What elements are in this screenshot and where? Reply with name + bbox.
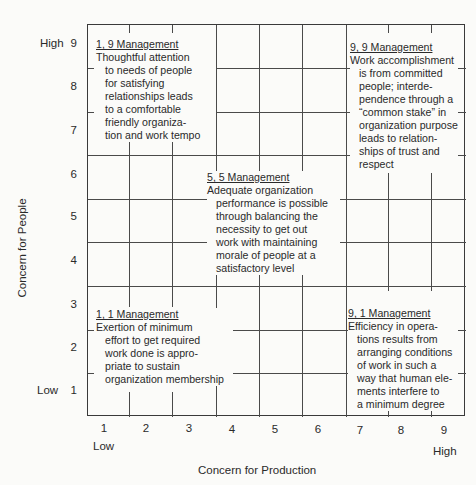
style-desc-line: friendly organiza- [96, 116, 200, 129]
style-desc-line: arranging conditions [348, 346, 452, 359]
grid-vline [431, 25, 432, 33]
style-desc-line: effort to get required [96, 334, 224, 347]
y-tick-7: 7 [57, 124, 77, 136]
style-desc-line: to a comfortable [96, 103, 200, 116]
managerial-grid: 1, 9 Management Thoughtful attention to … [87, 24, 465, 416]
style-desc-line: a minimum degree [348, 398, 452, 411]
style-desc-line: ships of trust and [350, 145, 458, 158]
style-desc-line: tions results from [348, 333, 452, 346]
style-desc-line: pendence through a [350, 93, 458, 106]
grid-hline [88, 199, 210, 200]
style-desc-line: way that human ele- [348, 372, 452, 385]
style-desc-line: tion and work tempo [96, 129, 200, 142]
y-tick-3: 3 [57, 298, 77, 310]
grid-hline [88, 373, 94, 374]
style-title: 1, 9 Management [96, 38, 200, 51]
style-desc-line: organization purpose [350, 119, 458, 132]
style-desc-line: work done is appro- [96, 347, 224, 360]
grid-hline [88, 112, 94, 113]
y-low-label: Low [37, 384, 58, 396]
y-tick-5: 5 [57, 210, 77, 222]
grid-hline [233, 373, 349, 374]
grid-hline [340, 242, 466, 243]
grid-vline [129, 141, 130, 307]
x-tick-5: 5 [265, 423, 285, 435]
y-tick-4: 4 [57, 254, 77, 266]
grid-vline [388, 173, 389, 291]
style-box-9-9: 9, 9 Management Work accomplishment is f… [350, 41, 458, 171]
x-tick-2: 2 [136, 422, 156, 434]
style-desc-line: through balancing the [207, 210, 328, 223]
style-desc-line: organization membership [96, 373, 224, 386]
grid-vline [172, 141, 173, 307]
style-desc-line: of work in such a [348, 359, 452, 372]
style-desc-line: is from committed [350, 67, 458, 80]
x-tick-6: 6 [308, 423, 328, 435]
style-desc-line: Exertion of minimum [96, 321, 224, 334]
style-desc-line: relationships leads [96, 90, 200, 103]
style-desc-line: “common stake” in [350, 106, 458, 119]
x-high-label: High [433, 445, 457, 457]
grid-hline [88, 242, 210, 243]
grid-vline [129, 392, 130, 417]
y-tick-6: 6 [57, 168, 77, 180]
style-desc-line: Efficiency in opera- [348, 320, 452, 333]
grid-vline [172, 392, 173, 417]
style-desc-line: ments interfere to [348, 385, 452, 398]
grid-hline [340, 199, 466, 200]
y-tick-8: 8 [57, 80, 77, 92]
x-tick-1: 1 [94, 422, 114, 434]
grid-hline [233, 330, 349, 331]
y-tick-1: 1 [57, 384, 77, 396]
grid-vline [129, 25, 130, 33]
x-tick-3: 3 [179, 422, 199, 434]
y-tick-2: 2 [57, 341, 77, 353]
grid-hline [88, 68, 94, 69]
style-desc-line: for satisfying [96, 77, 200, 90]
style-desc-line: Adequate organization [207, 184, 328, 197]
style-desc-line: satisfactory level [207, 262, 328, 275]
style-desc-line: work with maintaining [207, 236, 328, 249]
x-tick-8: 8 [391, 424, 411, 436]
grid-hline [88, 286, 466, 287]
y-tick-9: 9 [57, 37, 77, 49]
style-title: 9, 1 Management [348, 307, 452, 320]
grid-hline [88, 330, 94, 331]
grid-vline [346, 25, 347, 417]
x-tick-4: 4 [222, 423, 242, 435]
grid-hline [458, 373, 466, 374]
style-box-1-1: 1, 1 Management Exertion of minimum effo… [96, 308, 224, 386]
y-axis-title: Concern for People [16, 198, 28, 298]
style-box-1-9: 1, 9 Management Thoughtful attention to … [96, 38, 200, 142]
style-desc-line: to needs of people [96, 64, 200, 77]
style-box-5-5: 5, 5 Management Adequate organization pe… [207, 171, 328, 275]
x-low-label: Low [93, 440, 114, 452]
style-desc-line: necessity to get out [207, 223, 328, 236]
style-desc-line: priate to sustain [96, 360, 224, 373]
style-title: 9, 9 Management [350, 41, 458, 54]
grid-vline [388, 25, 389, 33]
style-title: 5, 5 Management [207, 171, 328, 184]
style-box-9-1: 9, 1 Management Efficiency in opera- tio… [348, 307, 452, 411]
style-title: 1, 1 Management [96, 308, 224, 321]
style-desc-line: people; interde- [350, 80, 458, 93]
style-desc-line: performance is possible [207, 197, 328, 210]
grid-vline [172, 25, 173, 33]
style-desc-line: respect [350, 158, 458, 171]
x-tick-9: 9 [434, 424, 454, 436]
style-desc-line: Work accomplishment [350, 54, 458, 67]
style-desc-line: Thoughtful attention [96, 51, 200, 64]
x-axis-title: Concern for Production [198, 464, 316, 476]
x-tick-7: 7 [350, 424, 370, 436]
style-desc-line: morale of people at a [207, 249, 328, 262]
grid-vline [431, 173, 432, 291]
grid-hline [458, 330, 466, 331]
style-desc-line: leads to relation- [350, 132, 458, 145]
